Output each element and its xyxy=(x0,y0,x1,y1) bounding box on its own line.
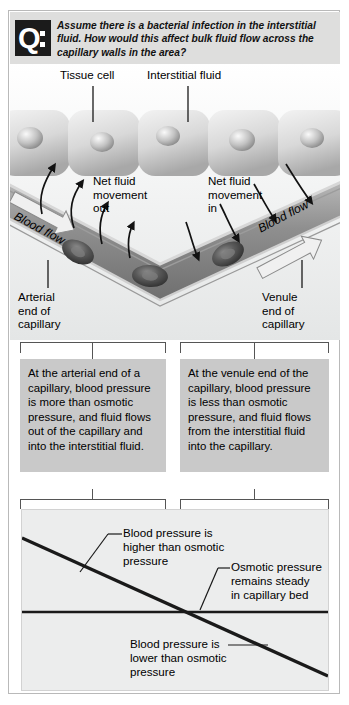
venule-line3: capillary xyxy=(262,317,305,331)
net-out-line3: out xyxy=(93,201,147,215)
q-dot-bottom xyxy=(40,42,45,47)
annotation-bp-lower: Blood pressure is lower than osmotic pre… xyxy=(130,637,227,679)
q-letter: Q xyxy=(18,21,41,55)
osmotic-leader xyxy=(200,568,218,610)
bracket-arterial-top xyxy=(20,342,166,359)
q-colon-icon: Q xyxy=(15,20,51,56)
osmotic-line3: in capillary bed xyxy=(231,588,322,602)
venule-line2: end of xyxy=(262,304,305,318)
bp-high-leader xyxy=(80,534,108,572)
label-net-fluid-out: Net fluid movement out xyxy=(93,174,147,215)
net-out-line2: movement xyxy=(93,188,147,202)
figure-panel: Q Assume there is a bacterial infection … xyxy=(8,10,340,694)
bp-high-line2: higher than osmotic xyxy=(123,540,224,554)
question-banner: Q Assume there is a bacterial infection … xyxy=(10,12,340,64)
question-text: Assume there is a bacterial infection in… xyxy=(57,19,332,59)
osmotic-line2: remains steady xyxy=(231,574,322,588)
tissue-cell-row xyxy=(10,110,340,176)
bp-low-line3: pressure xyxy=(130,665,227,679)
bracket-venule-bottom xyxy=(180,489,329,509)
arterial-line1: Arterial xyxy=(18,290,61,304)
bracket-arterial-bottom xyxy=(20,489,166,509)
bp-high-line1: Blood pressure is xyxy=(123,526,224,540)
label-tissue-cell: Tissue cell xyxy=(60,68,114,82)
net-out-line1: Net fluid xyxy=(93,174,147,188)
bracket-venule-top xyxy=(180,342,329,359)
net-in-line3: in xyxy=(208,201,262,215)
net-in-line2: movement xyxy=(208,188,262,202)
annotation-bp-higher: Blood pressure is higher than osmotic pr… xyxy=(123,526,224,568)
venule-line1: Venule xyxy=(262,290,305,304)
arterial-line2: end of xyxy=(18,304,61,318)
label-venule-end: Venule end of capillary xyxy=(262,290,305,331)
pressure-graph: Blood pressure is higher than osmotic pr… xyxy=(21,509,329,691)
net-in-line1: Net fluid xyxy=(208,174,262,188)
bp-high-line3: pressure xyxy=(123,554,224,568)
annotation-osmotic-steady: Osmotic pressure remains steady in capil… xyxy=(231,560,322,602)
label-interstitial-fluid: Interstitial fluid xyxy=(147,68,221,82)
label-net-fluid-in: Net fluid movement in xyxy=(208,174,262,215)
bp-low-line2: lower than osmotic xyxy=(130,651,227,665)
explanation-box-venule: At the venule end of the capillary, bloo… xyxy=(180,359,329,472)
bp-low-line1: Blood pressure is xyxy=(130,637,227,651)
arterial-line3: capillary xyxy=(18,317,61,331)
q-dot-top xyxy=(40,31,45,36)
capillary-illustration: Tissue cell Interstitial fluid Net fluid… xyxy=(10,64,340,340)
osmotic-line1: Osmotic pressure xyxy=(231,560,322,574)
label-arterial-end: Arterial end of capillary xyxy=(18,290,61,331)
explanation-box-arterial: At the arterial end of a capillary, bloo… xyxy=(20,359,166,472)
